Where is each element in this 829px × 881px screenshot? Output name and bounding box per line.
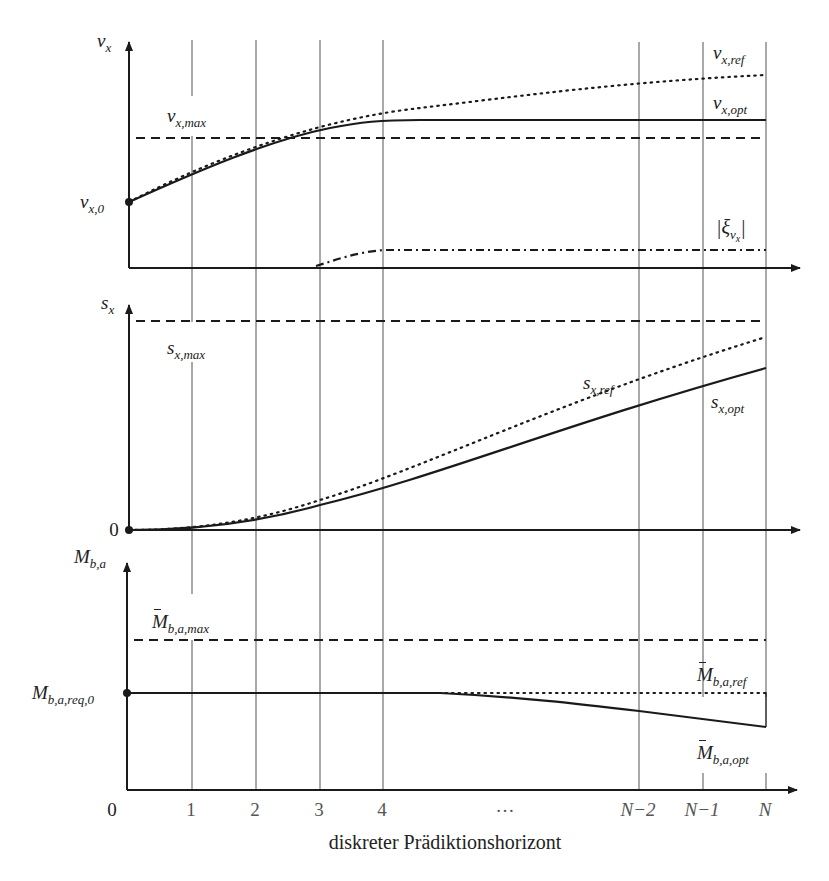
- m-initial-point: [123, 689, 131, 697]
- m-initial-label: Mb,a,req,0: [32, 683, 94, 706]
- m-opt-label: Mb,a,opt: [697, 743, 749, 766]
- panel-brake-torque: [123, 563, 797, 790]
- m-ref-label: Mb,a,ref: [697, 665, 746, 688]
- x-tick-4: 4: [377, 800, 387, 819]
- x-axis-title: diskreter Prädiktionshorizont: [329, 832, 562, 852]
- v-opt-solid: [129, 120, 766, 202]
- grid-lines: [192, 40, 766, 790]
- s-max-label: sx,max: [167, 338, 205, 361]
- s-ref-dotted: [129, 337, 766, 530]
- m-y-axis-label: Mb,a: [74, 547, 106, 570]
- s-opt-label: sx,opt: [711, 392, 744, 415]
- m-max-label: Mb,a,max: [152, 612, 209, 635]
- x-tick-2: 2: [250, 800, 260, 819]
- panel-velocity: [125, 42, 800, 268]
- v-max-label: vx,max: [167, 106, 206, 129]
- x-tick-3: 3: [314, 800, 324, 819]
- v-initial-label: vx,0: [80, 192, 104, 215]
- x-tick-0: 0: [107, 800, 117, 819]
- x-tick-n-minus-2: N−2: [621, 800, 656, 819]
- s-initial-label: 0: [109, 520, 119, 539]
- s-ref-label: sx,ref: [583, 373, 613, 396]
- s-y-axis-label: sx: [101, 293, 114, 316]
- x-tick-ellipsis: …: [496, 796, 515, 815]
- x-tick-n: N: [759, 800, 772, 819]
- panel-position: [125, 305, 800, 534]
- m-opt-solid: [127, 693, 766, 727]
- s-initial-point: [125, 526, 133, 534]
- v-ref-label: vx,ref: [713, 43, 744, 66]
- v-ref-dotted: [129, 75, 766, 202]
- v-opt-label: vx,opt: [713, 93, 747, 116]
- v-initial-point: [125, 198, 133, 206]
- x-tick-1: 1: [186, 800, 196, 819]
- v-y-axis-label: vx: [97, 31, 111, 54]
- s-opt-solid: [129, 368, 766, 530]
- xi-label: |ξvx|: [716, 217, 746, 244]
- x-tick-n-minus-1: N−1: [685, 800, 720, 819]
